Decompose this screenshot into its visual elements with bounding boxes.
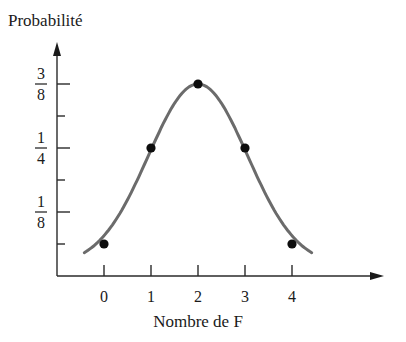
- fraction-denominator: 8: [37, 86, 45, 103]
- data-point: [240, 143, 249, 152]
- data-points: [99, 79, 296, 248]
- y-tick-label-fraction: 18: [35, 193, 47, 231]
- y-ticks: 181438: [35, 65, 70, 244]
- y-axis-label: Probabilité: [8, 11, 83, 30]
- x-tick-label: 4: [288, 288, 296, 305]
- x-tick-label: 1: [147, 288, 155, 305]
- fraction-denominator: 8: [37, 214, 45, 231]
- fraction-denominator: 4: [37, 150, 45, 167]
- y-axis-arrow-icon: [53, 42, 61, 56]
- fraction-numerator: 1: [37, 129, 45, 146]
- x-axis-label: Nombre de F: [153, 312, 243, 331]
- data-point: [287, 239, 296, 248]
- data-point: [99, 239, 108, 248]
- y-tick-label-fraction: 38: [35, 65, 47, 103]
- fraction-numerator: 1: [37, 193, 45, 210]
- data-point: [146, 143, 155, 152]
- probability-curve: [84, 84, 311, 253]
- x-axis-arrow-icon: [370, 272, 384, 280]
- x-ticks: 01234: [100, 265, 296, 305]
- fraction-numerator: 3: [37, 65, 45, 82]
- data-point: [193, 79, 202, 88]
- x-tick-label: 2: [194, 288, 202, 305]
- y-tick-label-fraction: 14: [35, 129, 47, 167]
- x-tick-label: 3: [241, 288, 249, 305]
- x-tick-label: 0: [100, 288, 108, 305]
- probability-chart: Probabilité 181438 01234 Nombre de F: [0, 0, 406, 342]
